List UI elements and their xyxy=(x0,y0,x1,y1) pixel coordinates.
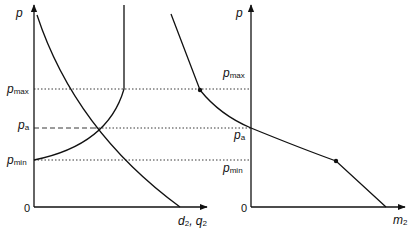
right-pmax-label: pmax xyxy=(222,66,245,80)
left-demand-curve xyxy=(37,15,180,207)
right-import-demand-curve xyxy=(171,14,386,207)
right-pa-label: pa xyxy=(233,128,246,142)
upper-kink-point xyxy=(198,88,202,92)
left-pmax-label: pmax xyxy=(6,82,29,96)
left-origin-label: 0 xyxy=(24,202,30,214)
left-y-axis-label: p xyxy=(15,6,23,20)
lower-kink-point xyxy=(334,159,338,163)
left-x-axis-label: d2, q2 xyxy=(178,214,208,228)
left-pa-label: pa xyxy=(17,118,30,132)
left-pmin-label: pmin xyxy=(6,153,27,167)
left-supply-curve xyxy=(34,5,124,160)
right-x-axis-label: m2 xyxy=(393,213,408,227)
right-y-axis-label: p xyxy=(235,6,243,20)
right-pmin-label: pmin xyxy=(222,161,243,175)
left-panel: p pmax pa pmin 0 d2, q2 xyxy=(6,5,251,228)
right-origin-label: 0 xyxy=(241,202,247,214)
right-panel: p pmax pa pmin 0 m2 xyxy=(171,5,408,227)
diagram: p pmax pa pmin 0 d2, q2 p pmax pa pmin 0… xyxy=(0,0,414,232)
